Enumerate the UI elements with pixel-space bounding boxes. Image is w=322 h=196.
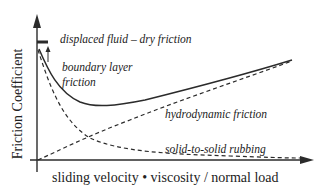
y-axis-arrow-icon: [33, 14, 41, 28]
displaced-fluid-label: displaced fluid – dry friction: [60, 33, 192, 45]
x-axis-label: sliding velocity • viscosity / normal lo…: [52, 170, 279, 186]
stribeck-diagram: Friction Coefficient sliding velocity • …: [0, 0, 322, 196]
x-axis-arrow-icon: [300, 156, 314, 164]
y-axis-label: Friction Coefficient: [10, 49, 26, 160]
solid-rubbing-label: solid-to-solid rubbing: [165, 143, 266, 155]
boundary-layer-label-1: boundary layer: [62, 61, 133, 73]
small-arrow-head-icon: [46, 46, 51, 52]
hydrodynamic-label: hydrodynamic friction: [165, 108, 267, 120]
diagram-canvas: [0, 0, 322, 196]
boundary-layer-label-2: friction: [62, 76, 96, 88]
